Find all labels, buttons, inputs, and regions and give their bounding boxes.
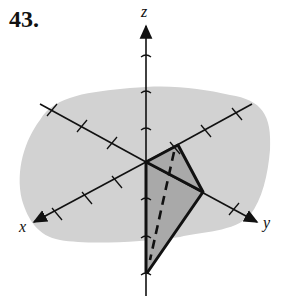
x-axis-label: x bbox=[18, 218, 26, 235]
z-axis-label: z bbox=[140, 3, 148, 20]
3d-axes-figure: z x y bbox=[0, 0, 288, 300]
y-axis-label: y bbox=[261, 214, 271, 232]
